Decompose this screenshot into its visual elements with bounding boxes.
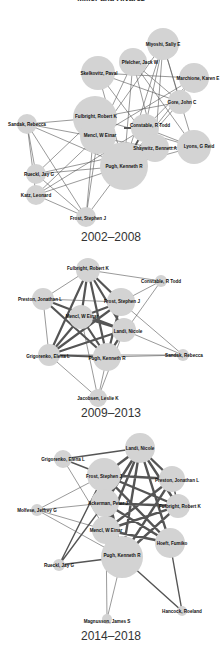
period-label-2009-2013: 2009–2013 [0, 406, 222, 420]
node-label: Fulbright, Robert K [159, 504, 202, 509]
period-label-2014-2018: 2014–2018 [0, 629, 222, 643]
node-label: Grigorenko, Elena L [26, 354, 70, 359]
node-label: Rueckl, Jay G [44, 563, 75, 568]
node-label: Jacobsen, Leslie K [77, 396, 119, 401]
node-label: Mencl, W Einar [84, 133, 117, 138]
node-label: Landi, Nicole [114, 329, 143, 334]
node-label: Fulbright, Robert K [67, 266, 110, 271]
node-label: Landi, Nicole [126, 446, 155, 451]
node-label: Rueckl, Jay G [24, 172, 55, 177]
node-label: Hancock, Roeland [162, 609, 202, 614]
node-label: Katz, Leonard [21, 193, 52, 198]
node-label: Fulbright, Robert K [75, 114, 118, 119]
network-panel-2002-2008: Miyoshi, Sally E Pfelcher, Jack W Skelko… [0, 0, 222, 240]
node-label: Pugh, Kenneth R [88, 356, 126, 361]
node-label: Preston, Jonathan L [18, 297, 62, 302]
node-label: Ackerman, Peter J [88, 501, 129, 506]
node-label: Preston, Jonathan L [155, 478, 199, 483]
node-label: Skelkovitz, Paval [80, 71, 117, 76]
node-label: Miyoshi, Sally E [146, 42, 181, 47]
node-label: Molfese, Jeffrey G [17, 508, 57, 513]
node-label: Magnusson, James S [84, 619, 131, 624]
node-label: Constable, R Todd [130, 123, 170, 128]
node-label: Sandak, Rebecca [8, 122, 46, 127]
node-label: Lyons, G Reid [184, 144, 215, 149]
node-label: Frost, Stephen J [86, 474, 122, 479]
period-label-2002-2008: 2002–2008 [0, 230, 222, 244]
node-label: Gore, John C [168, 100, 198, 105]
node-label: Frost, Stephen J [104, 299, 140, 304]
node-label: Sandak, Rebecca [165, 353, 203, 358]
node-label: Pugh, Kenneth R [103, 553, 141, 558]
node-label: Frost, Stephen J [70, 216, 106, 221]
node-label: Shaywitz, Bennett A [133, 146, 177, 151]
node-label: Constable, R Todd [141, 279, 181, 284]
network-panel-2009-2013: Fulbright, Robert K Constable, R Todd Pr… [0, 250, 222, 410]
node-label: Mencl, W Einar [66, 314, 99, 319]
node-label: Grigorenko, Elena L [41, 457, 85, 462]
node-label: Pfelcher, Jack W [122, 60, 159, 65]
node-label: Pugh, Kenneth R [105, 164, 143, 169]
node-label: Marchione, Karen E [177, 76, 220, 81]
network-panel-2014-2018: Landi, Nicole Grigorenko, Elena L Frost,… [0, 425, 222, 625]
node-label: Mencl, W Einar [90, 528, 123, 533]
node-label: Hoeft, Fumiko [157, 541, 188, 546]
